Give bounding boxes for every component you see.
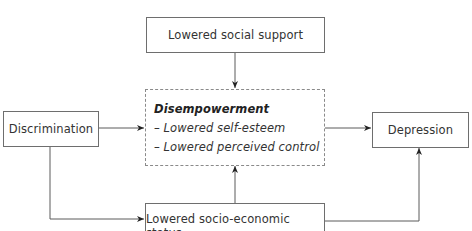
node-lowered-social-support: Lowered social support — [146, 17, 325, 53]
disempowerment-item-self-esteem: – Lowered self-esteem — [154, 119, 324, 138]
node-label: Lowered social support — [168, 28, 303, 42]
node-discrimination: Discrimination — [3, 111, 99, 147]
node-disempowerment: Disempowerment – Lowered self-esteem – L… — [145, 89, 325, 166]
node-depression: Depression — [372, 112, 469, 148]
node-label: Discrimination — [9, 122, 93, 136]
disempowerment-item-perceived-control: – Lowered perceived control — [154, 138, 324, 157]
arrow-ses-to-depression — [324, 148, 419, 221]
node-label: Lowered socio-economic status — [146, 212, 324, 231]
node-label: Depression — [388, 123, 453, 137]
arrow-discrimination-to-ses — [50, 146, 144, 219]
node-lowered-socio-economic-status: Lowered socio-economic status — [145, 203, 325, 231]
disempowerment-title: Disempowerment — [154, 100, 324, 119]
